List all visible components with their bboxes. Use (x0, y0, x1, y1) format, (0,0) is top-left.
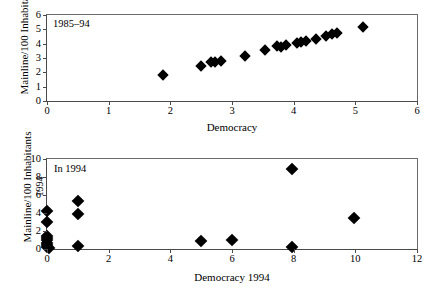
chart-panel-bottom: In 1994 0246810 024681012 Mainline/100 I… (0, 145, 430, 289)
x-tick-label: 8 (291, 254, 296, 265)
y-axis-title-line1: Mainline/100 Inhabitants (21, 132, 33, 243)
x-tick-label: 12 (412, 254, 423, 265)
y-axis-title-bottom: Mainline/100 Inhabitants (21, 112, 33, 262)
data-point (195, 235, 208, 248)
y-axis-title-top: Mainline/100 Inhabitants (18, 0, 30, 110)
x-tick-label: 10 (350, 254, 361, 265)
y-tick-label: 2 (36, 67, 41, 78)
chart-panel-top: 1985–94 0123456 0123456 Mainline/100 Inh… (0, 0, 430, 145)
x-tick-label: 5 (353, 106, 358, 117)
x-tick-label: 4 (168, 254, 173, 265)
data-point (239, 50, 250, 61)
x-tick-label: 1 (106, 106, 111, 117)
y-tick-label: 5 (36, 24, 41, 35)
y-axis-title-bottom-line2: 1994 (34, 112, 45, 262)
plot-area-bottom: In 1994 0246810 024681012 (46, 158, 418, 250)
plot-annotation-top: 1985–94 (53, 18, 90, 29)
x-tick-label: 4 (291, 106, 296, 117)
y-tick (43, 58, 47, 59)
data-point (347, 212, 360, 225)
plot-area-top: 1985–94 0123456 0123456 (46, 14, 418, 102)
data-point (71, 208, 84, 221)
x-tick-label: 6 (414, 106, 419, 117)
x-tick-label: 2 (106, 254, 111, 265)
x-tick-label: 3 (229, 106, 234, 117)
y-tick (43, 15, 47, 16)
y-tick-label: 6 (36, 10, 41, 21)
plot-annotation-bottom: In 1994 (54, 163, 86, 174)
x-tick-label: 0 (44, 254, 49, 265)
data-point (286, 241, 299, 254)
y-tick-label: 0 (36, 96, 41, 107)
y-tick-label: 4 (36, 38, 41, 49)
data-point (358, 22, 369, 33)
x-axis-title-top: Democracy (46, 121, 418, 133)
figure: 1985–94 0123456 0123456 Mainline/100 Inh… (0, 0, 430, 289)
data-point (157, 69, 168, 80)
y-tick (43, 72, 47, 73)
y-tick (43, 44, 47, 45)
y-tick-label: 1 (36, 81, 41, 92)
data-point (71, 194, 84, 207)
data-point (286, 163, 299, 176)
y-tick (43, 29, 47, 30)
data-point (71, 239, 84, 252)
x-tick-label: 0 (44, 106, 49, 117)
y-tick (43, 87, 47, 88)
x-axis-title-bottom: Democracy 1994 (46, 271, 418, 283)
x-tick-label: 6 (229, 254, 234, 265)
data-point (226, 234, 239, 247)
data-point (259, 44, 270, 55)
y-tick-label: 3 (36, 53, 41, 64)
x-tick-label: 2 (168, 106, 173, 117)
